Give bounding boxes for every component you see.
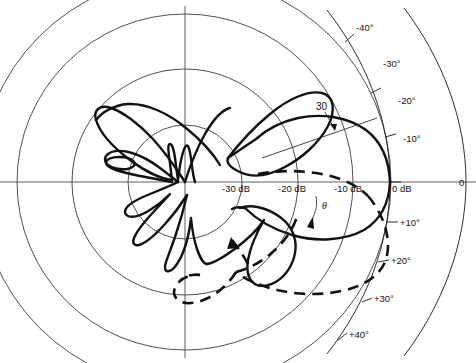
- dashed-lower-right-lobe: [236, 196, 388, 294]
- dashed-lower-left-lobe: [174, 272, 236, 303]
- theta-arrow-group: [307, 196, 317, 229]
- polar-pattern-chart: -30 dB -20 dB -10 dB 0 dB 0 -40° -30° -2…: [0, 0, 476, 363]
- label-angle-plus40: +40°: [349, 329, 369, 340]
- angle-tick-plus20: [378, 260, 389, 262]
- lobe-lower-right-join: [232, 207, 245, 209]
- label-angle-plus30: +30°: [374, 293, 394, 304]
- angle-tick-minus20: [385, 134, 396, 137]
- sidelobe-left-wiggle-lower: [125, 182, 187, 245]
- lobe-lower-left: [165, 195, 207, 271]
- angle-tick-plus30: [362, 298, 372, 302]
- polar-grid: [0, 0, 476, 363]
- label-angle-minus40: -40°: [356, 22, 374, 33]
- annotation-30-arrowhead: [330, 124, 337, 131]
- label-angle-minus20: -20°: [398, 95, 416, 106]
- label-angle-plus10: +10°: [400, 217, 420, 228]
- dashed-arrowhead: [227, 237, 238, 249]
- theta-arrowhead: [307, 217, 314, 229]
- label-angle-plus20: +20°: [391, 255, 411, 266]
- label-0db: 0 dB: [392, 183, 412, 194]
- label-angle-minus10: -10°: [403, 133, 421, 144]
- figure-container: -30 dB -20 dB -10 dB 0 dB 0 -40° -30° -2…: [0, 0, 476, 363]
- label-minus10db: -10 dB: [334, 183, 362, 194]
- label-outer-zero: 0: [459, 177, 464, 188]
- label-minus30db: -30 dB: [222, 183, 250, 194]
- label-annotation-30: 30: [316, 101, 328, 112]
- dashed-inner-arc: [236, 213, 298, 272]
- label-angle-minus30: -30°: [383, 58, 401, 69]
- label-theta: θ: [322, 200, 327, 211]
- label-minus20db: -20 dB: [278, 183, 306, 194]
- sidelobe-upper-left-outer: [96, 104, 220, 165]
